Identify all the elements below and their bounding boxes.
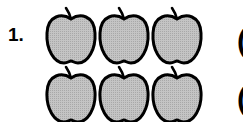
apple-icon — [150, 64, 204, 122]
answer-bracket-row1: ( — [237, 26, 243, 56]
apple-icon — [150, 5, 204, 65]
answer-bracket-row2: ( — [237, 84, 243, 114]
apple-icon — [97, 5, 151, 65]
apple-icon — [44, 64, 98, 122]
problem-number: 1. — [8, 24, 24, 46]
apple-icon — [44, 5, 98, 65]
apple-icon — [97, 64, 151, 122]
